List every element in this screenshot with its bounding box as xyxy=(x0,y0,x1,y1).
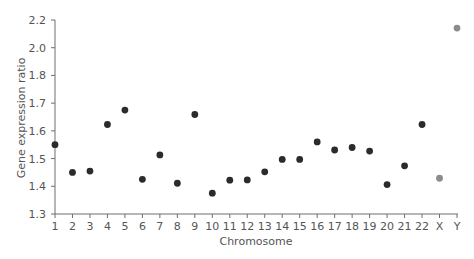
x-tick-label: 18 xyxy=(345,220,359,233)
data-point-chr-4 xyxy=(104,121,111,128)
data-point-chr-3 xyxy=(87,168,94,175)
y-tick-label: 1.6 xyxy=(29,125,47,138)
data-point-chr-20 xyxy=(384,181,391,188)
x-ticks: 12345678910111213141516171819202122XY xyxy=(52,214,461,233)
x-tick-label: 16 xyxy=(310,220,324,233)
x-axis: 12345678910111213141516171819202122XY xyxy=(52,214,461,233)
x-tick-label: 5 xyxy=(121,220,128,233)
x-tick-label: 6 xyxy=(139,220,146,233)
x-tick-label: 1 xyxy=(52,220,59,233)
data-point-chr-19 xyxy=(366,148,373,155)
y-tick-label: 1.8 xyxy=(29,69,47,82)
data-point-chr-8 xyxy=(174,180,181,187)
x-tick-label: X xyxy=(436,220,444,233)
data-point-chr-7 xyxy=(156,152,163,159)
y-tick-label: 1.4 xyxy=(29,180,47,193)
x-tick-label: Y xyxy=(453,220,461,233)
x-tick-label: 8 xyxy=(174,220,181,233)
data-point-chr-14 xyxy=(279,156,286,163)
data-point-chr-Y xyxy=(454,25,461,32)
x-tick-label: 9 xyxy=(191,220,198,233)
data-point-chr-5 xyxy=(122,107,129,114)
x-tick-label: 12 xyxy=(240,220,254,233)
data-point-chr-12 xyxy=(244,177,251,184)
data-point-chr-2 xyxy=(69,169,76,176)
x-tick-label: 4 xyxy=(104,220,111,233)
x-tick-label: 19 xyxy=(363,220,377,233)
x-tick-label: 10 xyxy=(205,220,219,233)
x-tick-label: 11 xyxy=(223,220,237,233)
data-point-chr-13 xyxy=(261,168,268,175)
data-point-chr-22 xyxy=(419,121,426,128)
data-point-chr-9 xyxy=(191,111,198,118)
y-tick-label: 1.7 xyxy=(29,97,47,110)
x-tick-label: 20 xyxy=(380,220,394,233)
data-point-chr-18 xyxy=(349,144,356,151)
y-tick-label: 1.5 xyxy=(29,153,47,166)
x-tick-label: 14 xyxy=(275,220,289,233)
x-tick-label: 22 xyxy=(415,220,429,233)
data-point-chr-10 xyxy=(209,190,216,197)
y-axis: 1.31.41.51.61.71.82.02.2 xyxy=(29,14,56,221)
data-point-chr-11 xyxy=(226,177,233,184)
y-ticks: 1.31.41.51.61.71.82.02.2 xyxy=(29,14,56,221)
x-tick-label: 3 xyxy=(86,220,93,233)
y-tick-label: 1.3 xyxy=(29,208,47,221)
y-tick-label: 2.0 xyxy=(29,42,47,55)
data-points xyxy=(52,25,461,197)
data-point-chr-16 xyxy=(314,139,321,146)
x-tick-label: 17 xyxy=(328,220,342,233)
x-tick-label: 2 xyxy=(69,220,76,233)
y-axis-title: Gene expression ratio xyxy=(15,57,28,178)
data-point-chr-21 xyxy=(401,162,408,169)
data-point-chr-17 xyxy=(331,147,338,154)
scatter-chart: 1.31.41.51.61.71.82.02.2 123456789101112… xyxy=(0,0,474,259)
data-point-chr-X xyxy=(436,175,443,182)
x-tick-label: 7 xyxy=(156,220,163,233)
x-tick-label: 21 xyxy=(398,220,412,233)
x-tick-label: 15 xyxy=(293,220,307,233)
x-axis-title: Chromosome xyxy=(219,235,292,248)
data-point-chr-15 xyxy=(296,156,303,163)
data-point-chr-6 xyxy=(139,176,146,183)
x-tick-label: 13 xyxy=(258,220,272,233)
y-tick-label: 2.2 xyxy=(29,14,47,27)
data-point-chr-1 xyxy=(52,141,59,148)
